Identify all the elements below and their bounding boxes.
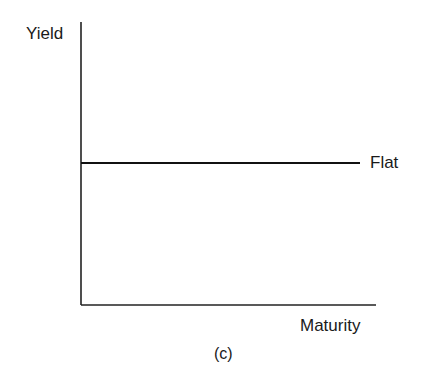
figure-caption: (c) xyxy=(214,346,233,362)
y-axis-label: Yield xyxy=(26,25,63,42)
x-axis-label: Maturity xyxy=(300,317,360,334)
series-label-flat: Flat xyxy=(370,154,398,171)
